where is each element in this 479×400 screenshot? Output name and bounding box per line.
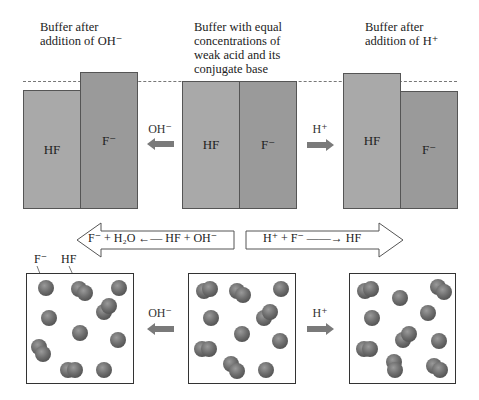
molecules-after-oh: [31, 280, 127, 378]
bottom-right-arrow-label: H⁺: [305, 306, 335, 321]
molecules-layer: [0, 0, 479, 400]
molecules-equal: [194, 281, 289, 379]
bottom-left-arrow-label: OH⁻: [145, 306, 175, 321]
right-arrow-icon: [307, 323, 334, 335]
left-arrow-icon: [147, 323, 174, 335]
molecules-after-h: [356, 279, 452, 378]
